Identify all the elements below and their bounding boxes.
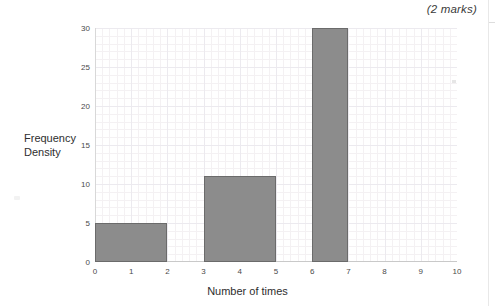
x-axis-tick-label: 2 bbox=[165, 267, 169, 276]
x-axis-title: Number of times bbox=[0, 285, 495, 297]
x-axis-tick-label: 4 bbox=[238, 267, 242, 276]
x-axis-tick-label: 10 bbox=[453, 267, 462, 276]
y-axis-tick-label: 10 bbox=[81, 180, 90, 189]
x-axis-tick-label: 3 bbox=[201, 267, 205, 276]
scan-artifact-left bbox=[14, 196, 20, 200]
histogram-plot-area: 051015202530 012345678910 bbox=[95, 28, 457, 262]
histogram-bar bbox=[204, 176, 276, 262]
y-axis-tick-label: 5 bbox=[86, 219, 90, 228]
x-axis-tick-label: 6 bbox=[310, 267, 314, 276]
histogram-bar bbox=[95, 223, 167, 262]
y-axis-tick-label: 20 bbox=[81, 102, 90, 111]
x-axis-tick-label: 1 bbox=[129, 267, 133, 276]
x-axis-tick-label: 7 bbox=[346, 267, 350, 276]
x-axis-tick-label: 0 bbox=[93, 267, 97, 276]
y-axis-tick-label: 15 bbox=[81, 141, 90, 150]
y-axis-tick-label: 0 bbox=[86, 258, 90, 267]
x-axis-tick-label: 5 bbox=[274, 267, 278, 276]
page-edge-right bbox=[488, 0, 489, 306]
y-axis-tick-label: 30 bbox=[81, 24, 90, 33]
x-axis-tick-label: 8 bbox=[382, 267, 386, 276]
y-axis-tick-label: 25 bbox=[81, 63, 90, 72]
histogram-bar bbox=[312, 28, 348, 262]
x-axis-tick-label: 9 bbox=[419, 267, 423, 276]
page-edge-top bbox=[489, 22, 495, 23]
marks-annotation: (2 marks) bbox=[427, 3, 477, 15]
